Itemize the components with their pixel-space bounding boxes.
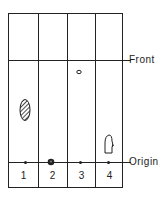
lane-label-3: 3 [67, 170, 96, 181]
lane-1-hatched-spot [20, 100, 30, 121]
lane-4-outlined-spot [105, 135, 114, 153]
lane-label-2: 2 [38, 170, 67, 181]
lane-3-open-spot [77, 70, 81, 73]
lane-2-filled-spot [48, 159, 55, 166]
lane-label-1: 1 [9, 170, 38, 181]
spots-layer [0, 0, 167, 198]
lane-label-4: 4 [95, 170, 124, 181]
